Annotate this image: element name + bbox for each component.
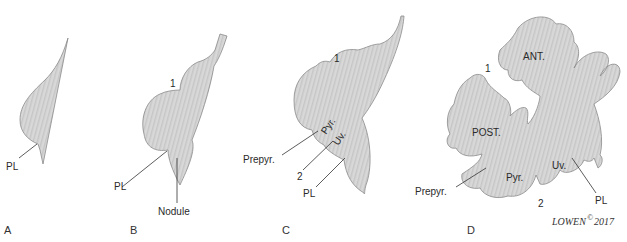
panel-a-shape [20, 38, 68, 164]
c-pl-leader [316, 158, 345, 187]
cerebellum-development-diagram: PL A 1 PL Nodule B 1 Prepyr. Pyr. Uv. 2 … [0, 0, 627, 242]
signature-name: LOWEN [551, 216, 587, 227]
panel-a: PL A [4, 38, 68, 236]
panel-letter-a: A [4, 224, 12, 236]
a-pl-leader [19, 144, 37, 158]
b-nodule-label: Nodule [158, 206, 190, 217]
b-pl-leader [122, 151, 167, 187]
panel-c-shape [294, 16, 404, 194]
panel-b-shape [143, 34, 227, 185]
a-pl-label: PL [6, 161, 19, 172]
c-pl-label: PL [303, 188, 316, 199]
d-fissure-2-label: 2 [538, 198, 544, 209]
d-pyr-label: Pyr. [506, 172, 523, 183]
b-fissure-1-label: 1 [170, 78, 176, 89]
c-prepyr-leader [282, 131, 318, 155]
panel-d: ANT. 1 POST. Prepyr. Pyr. Uv. 2 PL D [415, 17, 620, 236]
panel-c: 1 Prepyr. Pyr. Uv. 2 PL C [243, 16, 404, 236]
artist-signature: LOWEN © 2017 [551, 213, 615, 227]
panel-d-shape [447, 17, 620, 198]
signature-year: 2017 [594, 216, 615, 227]
c-fissure-2-label: 2 [297, 171, 303, 182]
panel-letter-c: C [282, 224, 290, 236]
d-fissure-1-label: 1 [485, 63, 491, 74]
copyright-symbol: © [587, 213, 593, 222]
panel-b: 1 PL Nodule B [114, 34, 227, 236]
b-pl-label: PL [114, 181, 127, 192]
d-prepyr-label: Prepyr. [415, 186, 447, 197]
d-uv-label: Uv. [552, 160, 566, 171]
d-pl-leader [572, 158, 596, 193]
panel-letter-d: D [467, 224, 475, 236]
d-post-label: POST. [472, 127, 501, 138]
c-prepyr-label: Prepyr. [243, 154, 275, 165]
c-fissure-1-label: 1 [334, 53, 340, 64]
d-pl-label: PL [595, 195, 608, 206]
d-ant-label: ANT. [523, 51, 545, 62]
panel-letter-b: B [130, 224, 137, 236]
c-2-leader [303, 141, 333, 170]
